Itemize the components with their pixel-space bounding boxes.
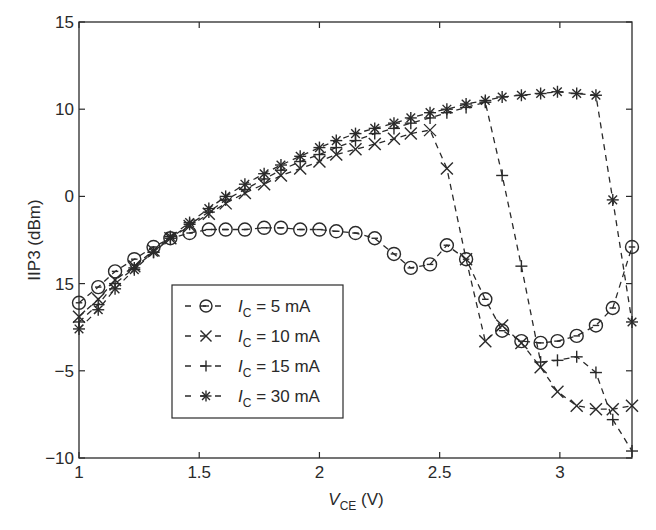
series-layer — [73, 86, 639, 457]
data-point — [92, 304, 104, 316]
x-axis-label: VCE (V) — [328, 490, 383, 513]
series-line — [79, 92, 632, 329]
data-point — [551, 86, 563, 98]
data-point — [424, 107, 436, 119]
data-point — [460, 253, 472, 265]
data-point — [388, 117, 400, 129]
data-point — [571, 88, 583, 100]
data-point — [388, 133, 400, 145]
data-point — [369, 122, 381, 134]
y-tick-label: −5 — [55, 362, 74, 381]
data-point — [571, 400, 583, 412]
data-point — [535, 356, 547, 368]
x-tick-label: 2.5 — [428, 463, 452, 482]
data-point — [441, 162, 453, 174]
data-point — [239, 178, 251, 190]
y-tick-label: 15 — [55, 13, 74, 32]
data-point — [607, 194, 619, 206]
data-point — [590, 89, 602, 101]
data-point — [405, 128, 417, 140]
data-point — [258, 168, 270, 180]
data-point — [128, 264, 140, 276]
data-point — [626, 445, 638, 457]
data-point — [73, 323, 85, 335]
data-point — [535, 88, 547, 100]
data-point — [368, 232, 381, 245]
iip3-vs-vce-chart: 1510015−5−10 11.522.53 IC = 5 mAIC = 10 … — [0, 0, 656, 530]
y-tick-label: −10 — [45, 449, 74, 468]
data-point — [441, 103, 453, 115]
series-line — [79, 102, 632, 451]
data-point — [405, 112, 417, 124]
data-point — [496, 169, 508, 181]
series-line — [79, 130, 632, 409]
data-point — [570, 329, 583, 342]
legend-marker-asterisk-icon — [201, 391, 212, 402]
data-point — [440, 239, 453, 252]
data-point — [424, 124, 436, 136]
data-point — [590, 403, 602, 415]
data-point — [350, 128, 362, 140]
data-point — [294, 150, 306, 162]
data-point — [460, 98, 472, 110]
data-point — [148, 246, 160, 258]
data-point — [274, 221, 287, 234]
data-point — [551, 386, 563, 398]
data-point — [551, 335, 564, 348]
series-plus — [73, 96, 638, 457]
data-point — [606, 302, 619, 315]
data-point — [330, 225, 343, 238]
data-point — [404, 261, 417, 274]
x-tick-label: 3 — [555, 463, 564, 482]
data-point — [571, 351, 583, 363]
data-point — [589, 319, 602, 332]
data-point — [184, 217, 196, 229]
data-point — [203, 203, 215, 215]
y-tick-label: 0 — [65, 187, 74, 206]
y-tick-label: 10 — [55, 100, 74, 119]
data-point — [515, 260, 527, 272]
series-asterisk — [73, 86, 638, 335]
data-point — [387, 247, 400, 260]
data-point — [590, 367, 602, 379]
data-point — [496, 91, 508, 103]
legend: IC = 5 mAIC = 10 mAIC = 15 mAIC = 30 mA — [172, 285, 343, 418]
x-tick-label: 1.5 — [187, 463, 211, 482]
data-point — [275, 159, 287, 171]
data-point — [479, 335, 491, 347]
series-circle — [73, 221, 639, 349]
data-point — [551, 354, 563, 366]
data-point — [515, 89, 527, 101]
data-point — [479, 94, 491, 106]
x-axis-label-subscript: CE — [340, 499, 357, 513]
data-point — [164, 231, 176, 243]
y-tick-label: 15 — [55, 275, 74, 294]
data-point — [313, 142, 325, 154]
data-point — [479, 293, 492, 306]
x-tick-label: 1 — [74, 463, 83, 482]
y-axis-label: IIP3 (dBm) — [25, 199, 44, 280]
data-point — [109, 283, 121, 295]
data-point — [330, 135, 342, 147]
data-point — [219, 223, 232, 236]
data-point — [220, 190, 232, 202]
data-point — [626, 316, 638, 328]
data-point — [92, 281, 105, 294]
data-point — [607, 403, 619, 415]
series-x — [73, 124, 638, 415]
x-axis-label-unit: (V) — [356, 490, 383, 509]
x-tick-label: 2 — [315, 463, 324, 482]
data-point — [607, 414, 619, 426]
data-point — [424, 258, 437, 271]
data-point — [349, 227, 362, 240]
data-point — [369, 138, 381, 150]
